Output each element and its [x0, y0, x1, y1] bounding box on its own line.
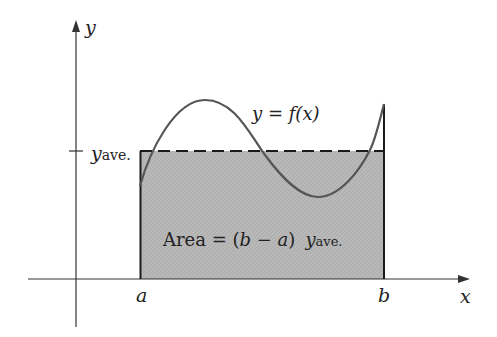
average-value-diagram: y x y = f(x) yave. a b Area = (b − a)yav… [0, 0, 497, 337]
x-axis-label: x [460, 285, 471, 307]
y-ave-label: yave. [90, 142, 131, 164]
area-label-b: b [240, 229, 252, 250]
b-label: b [378, 284, 390, 306]
y-axis-arrow-icon [72, 20, 80, 32]
curve-label-text: y = f(x) [251, 103, 320, 124]
y-ave-label-main: y [90, 142, 102, 164]
y-axis-label: y [84, 16, 96, 38]
area-label-minus: − [251, 229, 278, 250]
area-label-prefix: Area = ( [162, 229, 240, 250]
y-ave-label-sub: ave. [102, 147, 131, 163]
area-label-sub: ave. [316, 234, 343, 249]
area-label-a: a [278, 229, 289, 250]
a-label: a [136, 284, 147, 306]
area-rectangle [140, 151, 384, 279]
area-label-suffix: ) [288, 229, 295, 250]
x-axis-arrow-icon [458, 275, 470, 283]
area-label: Area = (b − a)yave. [162, 229, 342, 250]
curve-label: y = f(x) [251, 103, 320, 124]
